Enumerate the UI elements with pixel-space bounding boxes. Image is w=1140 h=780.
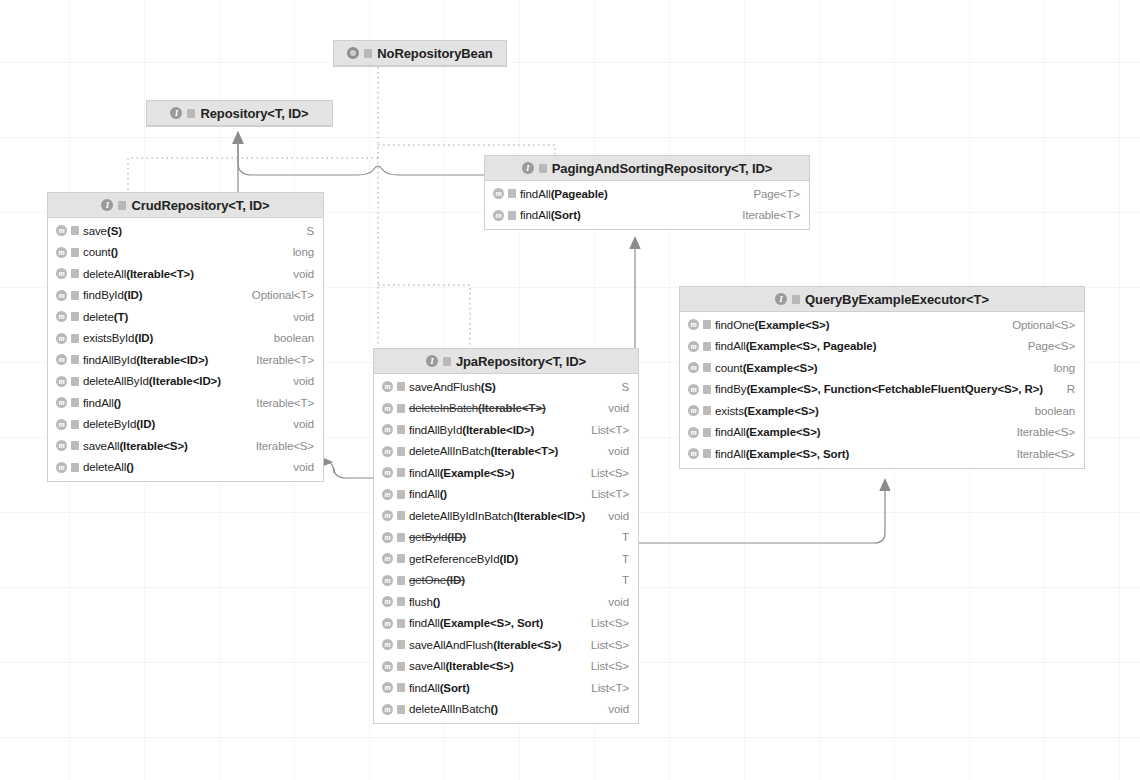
class-member-row[interactable]: mfindBy(Example<S>, Function<FetchableFl…	[680, 379, 1084, 401]
class-member-row[interactable]: mfindAll(Example<S>, Sort)Iterable<S>	[680, 443, 1084, 465]
visibility-icon	[71, 334, 79, 343]
class-member-row[interactable]: mfindAll(Sort)Iterable<T>	[485, 205, 809, 227]
visibility-icon	[118, 201, 126, 210]
visibility-icon	[187, 109, 195, 118]
class-member-row[interactable]: mexistsById(ID)boolean	[48, 328, 323, 350]
visibility-icon	[71, 398, 79, 407]
visibility-icon	[397, 597, 405, 606]
class-box-pagingandsortingrepository[interactable]: I PagingAndSortingRepository<T, ID> mfin…	[484, 155, 810, 230]
class-member-row[interactable]: mfindAllById(Iterable<ID>)Iterable<T>	[48, 349, 323, 371]
class-box-crudrepository[interactable]: I CrudRepository<T, ID> msave(S)Smcount(…	[47, 192, 324, 482]
class-member-row[interactable]: mdeleteInBatch(Iterable<T>)void	[374, 398, 638, 420]
class-header: I CrudRepository<T, ID>	[48, 193, 323, 218]
annotation-icon	[347, 47, 359, 59]
member-signature: count()	[83, 246, 118, 258]
visibility-icon	[508, 211, 516, 220]
class-box-norepositorybean[interactable]: NoRepositoryBean	[333, 40, 507, 67]
class-member-row[interactable]: mfindAll(Example<S>, Pageable)Page<S>	[680, 336, 1084, 358]
class-member-row[interactable]: mfindById(ID)Optional<T>	[48, 285, 323, 307]
class-member-row[interactable]: msaveAllAndFlush(Iterable<S>)List<S>	[374, 634, 638, 656]
class-member-row[interactable]: mdeleteAllByIdInBatch(Iterable<ID>)void	[374, 505, 638, 527]
class-member-row[interactable]: mfindAll()Iterable<T>	[48, 392, 323, 414]
class-member-row[interactable]: msaveAll(Iterable<S>)List<S>	[374, 656, 638, 678]
class-box-querybyexampleexecutor[interactable]: I QueryByExampleExecutor<T> mfindOne(Exa…	[679, 286, 1085, 469]
visibility-icon	[71, 420, 79, 429]
member-return-type: List<S>	[591, 639, 629, 651]
class-member-row[interactable]: msave(S)S	[48, 220, 323, 242]
member-return-type: void	[293, 461, 314, 473]
method-icon: m	[382, 446, 393, 457]
method-icon: m	[493, 210, 504, 221]
class-box-jparepository[interactable]: I JpaRepository<T, ID> msaveAndFlush(S)S…	[373, 348, 639, 724]
visibility-icon	[397, 490, 405, 499]
visibility-icon	[397, 425, 405, 434]
class-member-row[interactable]: mfindAll(Sort)List<T>	[374, 677, 638, 699]
member-signature: saveAll(Iterable<S>)	[409, 660, 514, 672]
method-icon: m	[382, 467, 393, 478]
class-member-row[interactable]: mfindAll(Example<S>)List<S>	[374, 462, 638, 484]
member-signature: findAll(Sort)	[520, 209, 581, 221]
class-member-row[interactable]: mdelete(T)void	[48, 306, 323, 328]
class-title: NoRepositoryBean	[377, 46, 492, 61]
member-return-type: Page<S>	[1028, 340, 1075, 352]
member-signature: exists(Example<S>)	[715, 405, 819, 417]
class-member-row[interactable]: mdeleteAllById(Iterable<ID>)void	[48, 371, 323, 393]
method-icon: m	[56, 397, 67, 408]
class-member-row[interactable]: mfindAll()List<T>	[374, 484, 638, 506]
class-member-row[interactable]: mgetById(ID)T	[374, 527, 638, 549]
member-list: mfindOne(Example<S>)Optional<S>mfindAll(…	[680, 312, 1084, 468]
class-member-row[interactable]: mexists(Example<S>)boolean	[680, 400, 1084, 422]
class-member-row[interactable]: mdeleteById(ID)void	[48, 414, 323, 436]
method-icon: m	[382, 682, 393, 693]
method-icon: m	[56, 225, 67, 236]
class-header: I Repository<T, ID>	[147, 101, 332, 126]
visibility-icon	[703, 428, 711, 437]
member-return-type: long	[293, 246, 314, 258]
class-member-row[interactable]: mgetOne(ID)T	[374, 570, 638, 592]
visibility-icon	[397, 554, 405, 563]
class-member-row[interactable]: mcount(Example<S>)long	[680, 357, 1084, 379]
class-member-row[interactable]: mdeleteAllInBatch()void	[374, 699, 638, 721]
class-member-row[interactable]: msaveAll(Iterable<S>)Iterable<S>	[48, 435, 323, 457]
member-return-type: void	[293, 311, 314, 323]
member-signature: findOne(Example<S>)	[715, 319, 829, 331]
visibility-icon	[71, 226, 79, 235]
member-return-type: Iterable<T>	[256, 397, 314, 409]
member-signature: findBy(Example<S>, Function<FetchableFlu…	[715, 383, 1043, 395]
member-return-type: T	[622, 574, 629, 586]
class-member-row[interactable]: mdeleteAll(Iterable<T>)void	[48, 263, 323, 285]
class-member-row[interactable]: mfindAll(Pageable)Page<T>	[485, 183, 809, 205]
member-return-type: T	[622, 553, 629, 565]
class-member-row[interactable]: mfindAll(Example<S>)Iterable<S>	[680, 422, 1084, 444]
class-member-row[interactable]: mcount()long	[48, 242, 323, 264]
member-return-type: List<T>	[591, 424, 629, 436]
method-icon: m	[382, 532, 393, 543]
member-signature: deleteAllInBatch(Iterable<T>)	[409, 445, 558, 457]
method-icon: m	[688, 448, 699, 459]
class-member-row[interactable]: msaveAndFlush(S)S	[374, 376, 638, 398]
class-member-row[interactable]: mflush()void	[374, 591, 638, 613]
class-member-row[interactable]: mfindAll(Example<S>, Sort)List<S>	[374, 613, 638, 635]
visibility-icon	[397, 640, 405, 649]
member-return-type: S	[306, 225, 314, 237]
member-return-type: void	[608, 445, 629, 457]
member-return-type: Iterable<T>	[742, 209, 800, 221]
class-member-row[interactable]: mdeleteAll()void	[48, 457, 323, 479]
class-member-row[interactable]: mgetReferenceById(ID)T	[374, 548, 638, 570]
visibility-icon	[397, 511, 405, 520]
class-member-row[interactable]: mfindOne(Example<S>)Optional<S>	[680, 314, 1084, 336]
member-signature: findAll()	[409, 488, 447, 500]
class-title: Repository<T, ID>	[200, 106, 308, 121]
class-member-row[interactable]: mdeleteAllInBatch(Iterable<T>)void	[374, 441, 638, 463]
member-return-type: Page<T>	[753, 188, 800, 200]
member-signature: findAllById(Iterable<ID>)	[409, 424, 534, 436]
class-member-row[interactable]: mfindAllById(Iterable<ID>)List<T>	[374, 419, 638, 441]
member-return-type: Iterable<S>	[1017, 426, 1075, 438]
member-return-type: Optional<T>	[252, 289, 314, 301]
class-box-repository[interactable]: I Repository<T, ID>	[146, 100, 333, 127]
method-icon: m	[382, 489, 393, 500]
interface-icon: I	[101, 199, 113, 211]
member-signature: count(Example<S>)	[715, 362, 818, 374]
method-icon: m	[382, 553, 393, 564]
member-list: mfindAll(Pageable)Page<T>mfindAll(Sort)I…	[485, 181, 809, 229]
